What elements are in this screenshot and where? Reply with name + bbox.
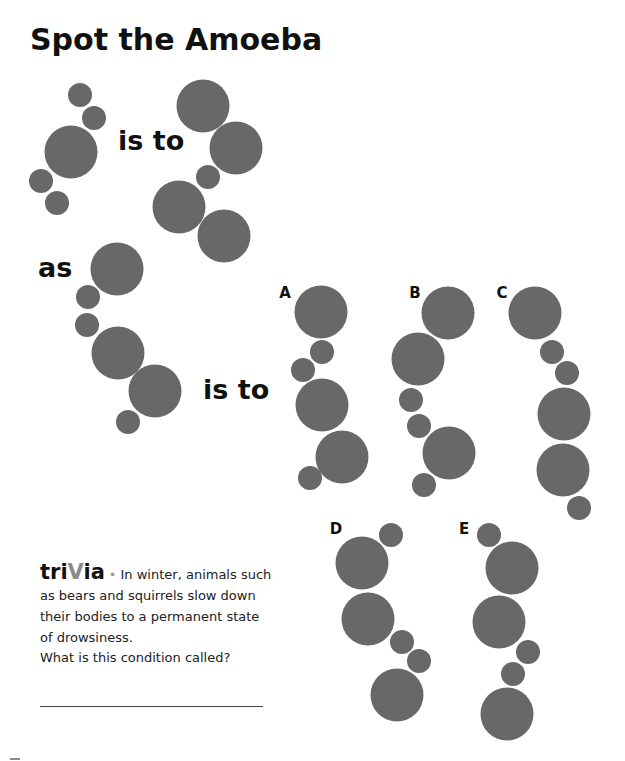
option-label-e: E <box>459 520 469 538</box>
circle-example-a-4 <box>45 191 69 215</box>
circle-example-a-0 <box>68 83 92 107</box>
circle-prompt-4 <box>129 365 182 418</box>
circle-prompt-2 <box>75 313 99 337</box>
circle-e-0 <box>477 523 501 547</box>
circle-c-3 <box>538 388 591 441</box>
option-label-c: C <box>496 284 507 302</box>
circle-c-0 <box>509 287 562 340</box>
circle-e-3 <box>516 640 540 664</box>
circle-a-4 <box>316 431 369 484</box>
circle-c-1 <box>540 340 564 364</box>
circle-d-5 <box>371 669 424 722</box>
as-label: as <box>38 252 72 283</box>
circle-example-b-3 <box>153 181 206 234</box>
circle-example-b-4 <box>198 210 251 263</box>
circle-prompt-0 <box>91 243 144 296</box>
circle-e-5 <box>481 688 534 741</box>
trivia-heading-v: V <box>68 560 84 584</box>
trivia-question: What is this condition called? <box>40 650 230 665</box>
circle-example-b-2 <box>196 165 220 189</box>
corner-mark <box>10 758 20 760</box>
option-label-b: B <box>409 284 420 302</box>
circle-a-0 <box>295 286 348 339</box>
circle-prompt-1 <box>76 285 100 309</box>
circle-b-5 <box>412 473 436 497</box>
circle-a-5 <box>298 466 322 490</box>
option-label-d: D <box>330 520 342 538</box>
circle-example-a-2 <box>45 126 98 179</box>
circle-d-3 <box>390 630 414 654</box>
circle-b-1 <box>392 333 445 386</box>
circle-d-1 <box>336 537 389 590</box>
circle-d-2 <box>342 593 395 646</box>
circle-example-b-1 <box>210 122 263 175</box>
page-title: Spot the Amoeba <box>30 22 322 57</box>
circle-a-2 <box>291 358 315 382</box>
circle-d-4 <box>407 649 431 673</box>
option-label-a: A <box>279 284 291 302</box>
circle-b-2 <box>399 388 423 412</box>
circle-b-4 <box>423 427 476 480</box>
circle-a-1 <box>310 340 334 364</box>
circle-e-2 <box>473 596 526 649</box>
circle-e-1 <box>486 542 539 595</box>
circle-d-0 <box>379 523 403 547</box>
circle-prompt-5 <box>116 410 140 434</box>
trivia-heading-post: ia <box>83 560 104 584</box>
trivia-heading: triVia <box>40 560 105 584</box>
bullet-icon: • <box>109 567 117 582</box>
circle-b-0 <box>422 287 475 340</box>
answer-line[interactable] <box>40 706 263 707</box>
trivia-heading-pre: tri <box>40 560 68 584</box>
circle-example-a-3 <box>29 169 53 193</box>
circle-c-5 <box>567 496 591 520</box>
circle-example-a-1 <box>82 106 106 130</box>
circle-a-3 <box>296 379 349 432</box>
is-to-label-2: is to <box>203 374 269 405</box>
circle-e-4 <box>501 662 525 686</box>
circle-c-4 <box>537 444 590 497</box>
circle-b-3 <box>407 414 431 438</box>
is-to-label-1: is to <box>118 125 184 156</box>
trivia-box: triVia•In winter, animals such as bears … <box>40 562 272 648</box>
circle-c-2 <box>555 361 579 385</box>
